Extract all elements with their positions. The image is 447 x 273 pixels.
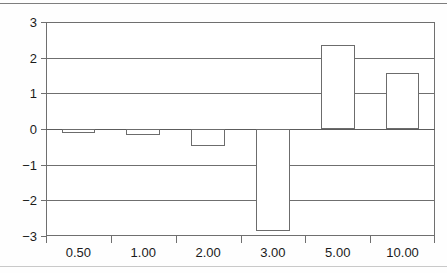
zero-line — [46, 129, 435, 130]
x-tick — [176, 236, 177, 243]
x-tick — [111, 236, 112, 243]
y-tick — [41, 22, 46, 23]
gridline — [46, 93, 435, 94]
bar — [256, 129, 290, 231]
y-tick-label: −1 — [22, 158, 37, 171]
bar — [386, 73, 420, 129]
y-tick — [41, 200, 46, 201]
bar — [126, 129, 160, 135]
page-top-rule — [0, 3, 447, 4]
y-tick — [41, 93, 46, 94]
page-bottom-rule — [0, 266, 447, 267]
x-tick-label: 2.00 — [195, 246, 220, 259]
gridline — [46, 58, 435, 59]
y-tick — [41, 165, 46, 166]
x-tick-label: 3.00 — [260, 246, 285, 259]
bar — [191, 129, 225, 146]
x-tick — [370, 236, 371, 243]
y-tick-label: 2 — [30, 51, 37, 64]
y-tick — [41, 129, 46, 130]
x-tick — [241, 236, 242, 243]
page-canvas: 3210−1−2−3 0.501.002.003.005.0010.00 — [0, 0, 447, 273]
bar-chart: 3210−1−2−3 0.501.002.003.005.0010.00 — [46, 22, 435, 236]
y-tick-label: 0 — [30, 123, 37, 136]
x-tick-label: 0.50 — [66, 246, 91, 259]
y-tick-label: −2 — [22, 194, 37, 207]
x-tick-label: 1.00 — [131, 246, 156, 259]
bar — [62, 129, 96, 133]
y-tick-label: 3 — [30, 16, 37, 29]
x-tick-label: 10.00 — [386, 246, 419, 259]
y-tick-label: −3 — [22, 230, 37, 243]
x-tick — [434, 236, 435, 243]
gridline — [46, 165, 435, 166]
y-tick — [41, 58, 46, 59]
gridline — [46, 200, 435, 201]
x-tick — [46, 236, 47, 243]
y-tick-label: 1 — [30, 87, 37, 100]
bar — [321, 45, 355, 129]
x-tick — [305, 236, 306, 243]
x-tick-label: 5.00 — [325, 246, 350, 259]
